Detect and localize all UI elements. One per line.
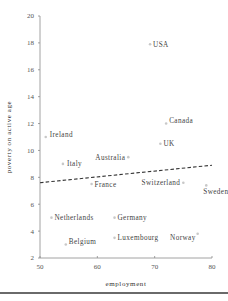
- point-marker: [113, 237, 116, 240]
- data-point-germany: Germany: [113, 214, 147, 222]
- point-marker: [165, 122, 168, 125]
- data-point-switzerland: Switzerland: [142, 179, 185, 187]
- y-tick-label: 14: [27, 93, 35, 101]
- point-marker: [149, 43, 152, 46]
- point-marker: [127, 156, 130, 159]
- point-marker: [44, 136, 47, 139]
- point-marker: [90, 183, 93, 186]
- point-label: Norway: [170, 234, 196, 242]
- y-tick-label: 10: [27, 147, 35, 155]
- point-label: USA: [153, 41, 169, 49]
- data-point-usa: USA: [149, 41, 169, 49]
- y-tick-label: 20: [27, 12, 35, 20]
- point-label: Australia: [95, 154, 125, 162]
- y-tick-label: 16: [27, 66, 35, 74]
- data-point-italy: Italy: [62, 160, 82, 168]
- point-label: UK: [163, 140, 175, 148]
- point-marker: [182, 181, 185, 184]
- bottom-divider: [0, 292, 228, 294]
- y-axis-title: poverty on active age: [5, 101, 13, 174]
- data-point-canada: Canada: [165, 117, 194, 125]
- y-tick-label: 4: [31, 228, 35, 236]
- data-point-uk: UK: [159, 140, 175, 148]
- x-axis-title: employment: [106, 280, 147, 288]
- point-label: Italy: [67, 160, 82, 168]
- x-tick-label: 70: [151, 263, 159, 271]
- point-marker: [113, 216, 116, 219]
- data-points: USACanadaIrelandUKAustraliaItalyFranceSw…: [44, 41, 228, 246]
- point-label: Germany: [118, 214, 148, 222]
- data-point-ireland: Ireland: [44, 131, 72, 139]
- point-marker: [65, 243, 68, 246]
- y-tick-label: 12: [27, 120, 35, 128]
- x-tick-label: 80: [209, 263, 217, 271]
- data-point-sweden: Sweden: [203, 184, 228, 196]
- point-label: Belgium: [69, 238, 97, 246]
- data-point-belgium: Belgium: [65, 238, 97, 246]
- point-label: Ireland: [50, 131, 73, 139]
- point-label: Netherlands: [54, 214, 93, 222]
- axes: 2468101214161820 50607080: [27, 12, 216, 271]
- data-point-australia: Australia: [95, 154, 129, 162]
- point-marker: [62, 163, 65, 166]
- data-point-norway: Norway: [170, 233, 199, 242]
- point-marker: [196, 233, 199, 236]
- point-marker: [50, 216, 53, 219]
- data-point-netherlands: Netherlands: [50, 214, 93, 222]
- point-label: Sweden: [203, 188, 228, 196]
- point-label: Switzerland: [142, 179, 181, 187]
- data-point-luxembourg: Luxembourg: [113, 234, 158, 242]
- x-tick-label: 50: [37, 263, 45, 271]
- y-tick-label: 6: [31, 201, 35, 209]
- trendline: [40, 165, 212, 182]
- point-marker: [159, 142, 162, 145]
- point-marker: [205, 184, 208, 187]
- scatter-chart: 2468101214161820 50607080 poverty on act…: [0, 0, 228, 292]
- point-label: Canada: [169, 117, 193, 125]
- x-tick-label: 60: [94, 263, 102, 271]
- point-label: Luxembourg: [118, 234, 159, 242]
- y-tick-label: 8: [31, 174, 35, 182]
- data-point-france: France: [90, 181, 116, 189]
- y-tick-label: 18: [27, 39, 35, 47]
- y-tick-label: 2: [31, 254, 35, 262]
- y-ticks: 2468101214161820: [27, 12, 40, 262]
- point-label: France: [95, 181, 117, 189]
